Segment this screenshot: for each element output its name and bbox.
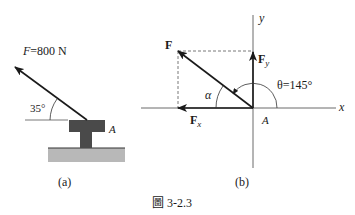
fy-sub: y xyxy=(265,58,269,68)
fy-label: Fy xyxy=(258,53,269,65)
force-label-a: F=800 N xyxy=(23,45,67,57)
theta-label: θ=145° xyxy=(277,79,312,91)
caption-a: (a) xyxy=(58,176,71,188)
diagram-canvas xyxy=(0,0,355,215)
force-label-b: F xyxy=(165,39,172,51)
fx-sub: x xyxy=(197,119,201,129)
x-axis-label: x xyxy=(339,101,344,113)
ground xyxy=(48,148,125,162)
origin-label: A xyxy=(262,115,269,126)
block-top xyxy=(69,120,105,132)
angle-label-35: 35° xyxy=(30,103,45,114)
figure-a xyxy=(15,67,125,162)
f-arrow xyxy=(178,51,253,108)
figure-caption: 圖 3-2.3 xyxy=(152,197,192,209)
theta-arc xyxy=(233,83,277,108)
angle-arc-35 xyxy=(50,99,57,120)
fx-label: Fx xyxy=(190,114,201,126)
force-value: =800 N xyxy=(30,44,66,58)
caption-b: (b) xyxy=(235,176,249,188)
y-axis-label: y xyxy=(259,12,264,24)
alpha-label: α xyxy=(205,89,211,101)
block-stem xyxy=(80,131,92,148)
point-label-a: A xyxy=(109,124,116,135)
alpha-arc xyxy=(216,86,223,108)
